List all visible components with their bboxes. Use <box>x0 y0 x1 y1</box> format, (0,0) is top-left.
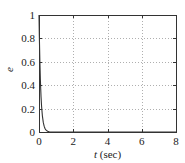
x-tick-label: 8 <box>173 135 179 147</box>
x-axis-tick-labels: 02468 <box>36 135 179 147</box>
x-tick-label: 6 <box>139 135 145 147</box>
y-axis-label-variable: e <box>3 67 15 72</box>
x-tick-label: 2 <box>71 135 77 147</box>
y-tick-label: 1 <box>30 9 36 21</box>
x-axis-label-unit: (sec) <box>97 148 121 161</box>
y-axis-label: e <box>3 67 15 72</box>
axis-ticks <box>39 15 177 133</box>
plot-area-frame <box>40 16 177 133</box>
y-tick-label: 0.2 <box>21 103 35 115</box>
x-tick-label: 4 <box>105 135 111 147</box>
grid-lines <box>39 15 176 132</box>
y-tick-label: 0.6 <box>21 56 35 68</box>
chart: 02468 00.20.40.60.81 t (sec) e <box>0 0 185 163</box>
y-tick-label: 0 <box>30 126 36 138</box>
x-axis-label: t (sec) <box>94 148 122 161</box>
y-axis-tick-labels: 00.20.40.60.81 <box>21 9 35 138</box>
data-line-e <box>39 15 176 132</box>
y-tick-label: 0.8 <box>21 32 35 44</box>
data-series <box>39 15 176 132</box>
x-tick-label: 0 <box>36 135 42 147</box>
y-tick-label: 0.4 <box>21 79 35 91</box>
